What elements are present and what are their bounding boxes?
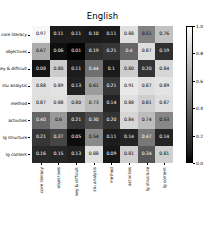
y-axis-label-6: lg structure [3,129,27,146]
heatmap-cell: 0.06 [50,43,68,60]
y-axis-label-5: activities [8,112,27,129]
y-axis-label-2: key & difficult [0,60,27,77]
heatmap-cell-value: 0.88 [89,152,99,157]
y-axis-label-1: objectives [6,43,27,60]
heatmap-cell-value: 0.47 [142,135,152,140]
heatmap-cell: 0.13 [67,146,85,163]
heatmap-cell-value: 0.21 [71,118,81,123]
x-axis-label-4: method [109,167,114,183]
heatmap-cell: 0.09 [103,146,121,163]
heatmap-cell-value: 0.16 [36,152,46,157]
heatmap-cell: 0.34 [138,146,156,163]
heatmap-cell-value: 0.80 [54,67,64,72]
colorbar-tick-label-1: 0.8 [196,51,203,56]
heatmap-cell: 0.20 [138,60,156,77]
x-axis-tick-mark [164,163,165,165]
heatmap-cell: 0.91 [120,77,138,94]
heatmap-cell: 0.14 [155,129,173,146]
heatmap-cell: 0.01 [67,43,85,60]
heatmap-cell: 0.87 [32,95,50,112]
heatmap-cell: 0.87 [155,95,173,112]
heatmap-cell: 0.80 [50,60,68,77]
x-axis-tick-mark [94,163,95,165]
x-axis-tick-mark [76,163,77,165]
heatmap-cell-value: 0.89 [54,84,64,89]
colorbar-tick-mark [193,108,195,109]
colorbar-tick-mark [193,81,195,82]
heatmap-cell: 0.54 [85,129,103,146]
heatmap-cell: 0.11 [103,129,121,146]
heatmap-cell-value: 0.54 [89,135,99,140]
heatmap-cell-value: 0.84 [124,118,134,123]
heatmap-cell: 0.76 [155,26,173,43]
x-axis-label-6: lg structure [144,167,149,191]
x-axis-tick-labels: core literacyobjectiveskey & difficultst… [32,163,173,201]
heatmap-cell: 0.89 [50,77,68,94]
x-axis-tick-mark [111,163,112,165]
heatmap-cell: 0.74 [138,112,156,129]
heatmap-cell-value: 0.21 [106,49,116,54]
heatmap-cell: 0.4 [120,43,138,60]
heatmap-cell: 0.88 [32,77,50,94]
x-axis-label-wrap-2: key & difficult [67,167,85,201]
colorbar-tick-mark [193,26,195,27]
heatmap-cell: 0.15 [50,146,68,163]
heatmap-cell-value: 0.44 [89,67,99,72]
x-axis-label-wrap-7: lg content [155,167,173,201]
heatmap-cell: 0.44 [85,60,103,77]
heatmap-cell-value: 0.21 [106,84,116,89]
heatmap-cell: 0.81 [138,95,156,112]
heatmap-cell-value: 0.81 [142,101,152,106]
y-axis-label-4: method [11,95,27,112]
heatmap-cell: 0.1 [103,60,121,77]
heatmap-cell: 0.10 [85,26,103,43]
colorbar-tick-label-3: 0.4 [196,106,203,111]
heatmap-cell-value: 0.27 [54,135,64,140]
heatmap-cell-value: 0.20 [142,67,152,72]
x-axis-tick-mark [58,163,59,165]
heatmap-cell-value: 0.80 [71,101,81,106]
heatmap-cell: 0.21 [103,43,121,60]
heatmap-cell: 0.30 [85,112,103,129]
heatmap-cell-value: 0.1 [108,67,115,72]
heatmap-cell: 0.21 [67,112,85,129]
heatmap-cell-value: 0.11 [71,67,81,72]
heatmap-cell: 0.87 [138,77,156,94]
heatmap-cell-value: 0.88 [124,101,134,106]
x-axis-label-3: stu analysis [91,167,96,192]
heatmap-cell: 0.13 [67,77,85,94]
heatmap-cell-value: 0.14 [159,135,169,140]
heatmap-plot-area: 0.970.110.110.100.110.880.510.760.670.06… [32,26,173,163]
x-axis-label-wrap-3: stu analysis [85,167,103,201]
heatmap-cell-value: 0.81 [124,152,134,157]
heatmap-cell-value: 0.74 [142,118,152,123]
heatmap-cell: 0.81 [120,146,138,163]
heatmap-cell-value: 0.87 [36,101,46,106]
heatmap-cell: 0.40 [32,112,50,129]
x-axis-label-wrap-1: objectives [50,167,68,201]
heatmap-cell-value: 0.21 [36,135,46,140]
colorbar-gradient [186,26,193,163]
heatmap-cell: 0.20 [103,112,121,129]
heatmap-cell: 0.81 [155,146,173,163]
heatmap-cell: 0.16 [32,146,50,163]
heatmap-cell-value: 0.87 [159,101,169,106]
heatmap-cell: 0.73 [85,95,103,112]
heatmap-cell-value: 0.01 [71,49,81,54]
heatmap-cell: 0.88 [120,95,138,112]
heatmap-cell: 0.14 [103,95,121,112]
heatmap-cell: 0.11 [50,26,68,43]
y-axis-label-0: core literacy [1,26,27,43]
heatmap-cell: 0.61 [85,77,103,94]
heatmap-cell: 0.21 [103,77,121,94]
heatmap-cell: 0.51 [138,26,156,43]
heatmap-cell-value: 0.97 [36,32,46,37]
heatmap-cell-value: 0.05 [71,135,81,140]
heatmap-cell: 0.11 [67,60,85,77]
heatmap-cell-value: 0.87 [142,49,152,54]
heatmap-cell: 0.88 [120,26,138,43]
heatmap-cell-value: 0.4 [125,49,132,54]
heatmap-cell: 0.19 [155,43,173,60]
colorbar-tick-label-2: 0.6 [196,78,203,83]
y-axis-tick-mark [28,35,30,36]
